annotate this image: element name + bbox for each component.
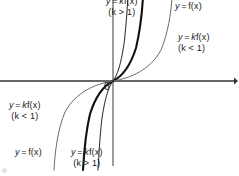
origin-label: 0	[104, 81, 110, 92]
annotation-original-top: y=f(x)	[175, 1, 202, 12]
annotation-equals: =	[14, 100, 22, 110]
annotation-function: f(x)	[124, 0, 138, 6]
annotation-condition: (k < 1)	[178, 43, 210, 54]
annotation-function: f(x)	[27, 100, 41, 110]
annotation-condition: (k < 1)	[9, 111, 41, 122]
annotation-equals: =	[180, 1, 188, 11]
annotation-equals: =	[76, 147, 84, 157]
annotation-var-y: y	[178, 32, 183, 42]
annotation-var-y: y	[15, 147, 20, 157]
annotation-k-greater-than-1-top: y=kf(x) (k > 1)	[106, 0, 138, 18]
annotation-var-y: y	[9, 100, 14, 110]
annotation-equals: =	[183, 32, 191, 42]
annotation-function: f(x)	[28, 147, 42, 157]
annotation-var-y: y	[175, 1, 180, 11]
annotation-condition: (k > 1)	[71, 158, 103, 169]
annotation-function: f(x)	[188, 1, 202, 11]
x-axis-arrowhead-icon	[234, 78, 238, 85]
annotation-var-y: y	[71, 147, 76, 157]
annotation-var-y: y	[106, 0, 111, 6]
annotation-condition: (k > 1)	[106, 7, 138, 18]
annotation-equals: =	[111, 0, 119, 6]
math-figure: 0 y=kf(x) (k > 1) y=f(x) y=kf(x) (k < 1)…	[0, 0, 239, 176]
annotation-original-bottom: y=f(x)	[15, 147, 42, 158]
annotation-function: f(x)	[196, 32, 210, 42]
annotation-function: f(x)	[89, 147, 103, 157]
annotation-equals: =	[20, 147, 28, 157]
annotation-k-less-than-1-right: y=kf(x) (k < 1)	[178, 32, 210, 54]
annotation-k-less-than-1-left: y=kf(x) (k < 1)	[9, 100, 41, 122]
scan-artifact	[2, 168, 7, 173]
annotation-k-greater-than-1-bottom: y=kf(x) (k > 1)	[71, 147, 103, 169]
